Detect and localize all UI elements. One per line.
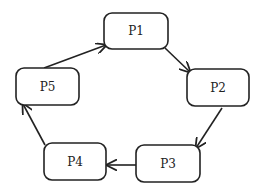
node-label: P5 [40,80,56,94]
node-p5: P5 [16,68,79,105]
node-label: P3 [160,157,176,171]
cycle-diagram: P1P2P3P4P5 [0,0,260,192]
node-label: P2 [210,81,226,95]
arrow-p1-to-p2 [165,48,190,72]
node-label: P4 [67,155,83,169]
arrow-p4-to-p5 [23,104,45,145]
node-p4: P4 [44,143,106,180]
nodes-group: P1P2P3P4P5 [16,13,249,182]
node-p1: P1 [104,13,168,49]
node-label: P1 [128,24,144,38]
node-p3: P3 [136,145,200,182]
arrow-p2-to-p3 [196,108,222,148]
arrow-p5-to-p1 [44,45,106,68]
node-p2: P2 [187,69,249,106]
